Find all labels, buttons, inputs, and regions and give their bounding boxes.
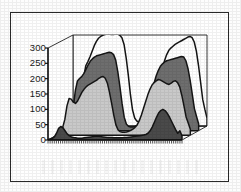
y-tick-label: 300 bbox=[30, 43, 46, 53]
y-tick-label: 0 bbox=[41, 135, 46, 145]
y-tick-label: 100 bbox=[30, 105, 46, 115]
figure-root: 300250200150100500 bbox=[0, 0, 241, 192]
y-tick-label: 250 bbox=[30, 59, 46, 69]
y-tick-label: 200 bbox=[30, 74, 46, 84]
y-tick-label: 150 bbox=[30, 89, 46, 99]
y-tick-label: 50 bbox=[35, 120, 46, 130]
scan-artifact-band bbox=[42, 160, 202, 174]
